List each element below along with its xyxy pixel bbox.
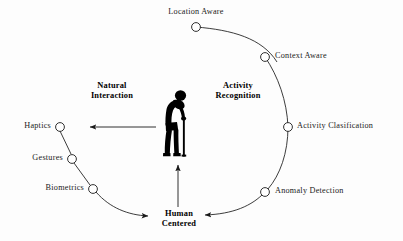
group-label-activity-recognition-line2: Recognition bbox=[196, 91, 280, 101]
node-label-biometrics: Biometrics bbox=[0, 184, 84, 193]
node-label-anomaly-detection: Anomaly Detection bbox=[275, 187, 344, 196]
node-gestures[interactable] bbox=[68, 155, 77, 164]
elderly-person-with-cane-icon bbox=[163, 90, 186, 156]
hub-label-line1: Human bbox=[150, 209, 208, 219]
node-label-location-aware: Location Aware bbox=[156, 8, 236, 17]
node-anomaly-detection[interactable] bbox=[261, 188, 270, 197]
diagram-canvas: Natural Interaction Activity Recognition… bbox=[0, 0, 403, 241]
node-location-aware[interactable] bbox=[192, 23, 201, 32]
node-label-gestures: Gestures bbox=[0, 154, 63, 163]
group-label-natural-interaction-line2: Interaction bbox=[70, 91, 154, 101]
node-label-activity-clasification: Activity Clasification bbox=[297, 122, 373, 131]
node-label-haptics: Haptics bbox=[0, 122, 51, 131]
hub-label-line2: Centered bbox=[150, 219, 208, 229]
group-label-natural-interaction-line1: Natural bbox=[70, 81, 154, 91]
group-label-activity-recognition-line1: Activity bbox=[196, 81, 280, 91]
node-biometrics[interactable] bbox=[89, 185, 98, 194]
node-label-context-aware: Context Aware bbox=[275, 52, 327, 61]
node-activity-clasification[interactable] bbox=[284, 123, 293, 132]
group-label-activity-recognition: Activity Recognition bbox=[196, 81, 280, 102]
node-context-aware[interactable] bbox=[261, 53, 270, 62]
node-haptics[interactable] bbox=[56, 123, 65, 132]
hub-label-human-centered: Human Centered bbox=[150, 209, 208, 230]
group-label-natural-interaction: Natural Interaction bbox=[70, 81, 154, 102]
left-chain-path bbox=[60, 131, 148, 216]
